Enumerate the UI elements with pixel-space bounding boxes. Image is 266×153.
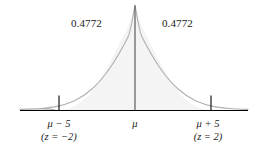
axis-label-mu-minus-5-z: (z = −2): [23, 131, 95, 144]
axis-label-mu-minus-5: μ − 5 (z = −2): [23, 118, 95, 143]
normal-distribution-figure: 0.4772 0.4772 μ − 5 (z = −2) μ μ + 5 (z …: [0, 0, 266, 153]
axis-label-mu-main: μ: [132, 118, 137, 129]
right-area-value-label: 0.4772: [162, 17, 193, 29]
axis-label-mu-plus-5: μ + 5 (z = 2): [172, 118, 244, 143]
axis-label-mu-plus-5-z: (z = 2): [172, 131, 244, 144]
axis-label-mu-minus-5-main: μ − 5: [48, 118, 71, 129]
axis-label-mu: μ: [112, 118, 158, 131]
left-area-value-label: 0.4772: [71, 17, 102, 29]
axis-label-mu-plus-5-main: μ + 5: [197, 118, 220, 129]
